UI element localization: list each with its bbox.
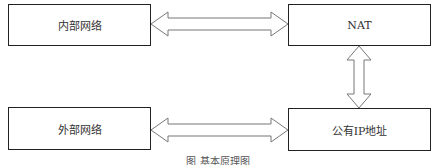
arrow-nat-publicip bbox=[347, 46, 371, 108]
node-label: 内部网络 bbox=[58, 17, 102, 33]
node-nat: NAT bbox=[288, 4, 431, 46]
node-public-ip: 公有IP地址 bbox=[288, 108, 431, 151]
arrow-internal-nat bbox=[151, 12, 288, 36]
node-label: 公有IP地址 bbox=[332, 122, 388, 138]
node-label: 外部网络 bbox=[58, 121, 102, 137]
figure-caption: 图 基本原理图 bbox=[0, 156, 436, 165]
node-internal-network: 内部网络 bbox=[8, 4, 151, 46]
node-external-network: 外部网络 bbox=[8, 107, 151, 150]
arrow-external-publicip bbox=[151, 118, 288, 142]
node-label: NAT bbox=[347, 19, 371, 32]
